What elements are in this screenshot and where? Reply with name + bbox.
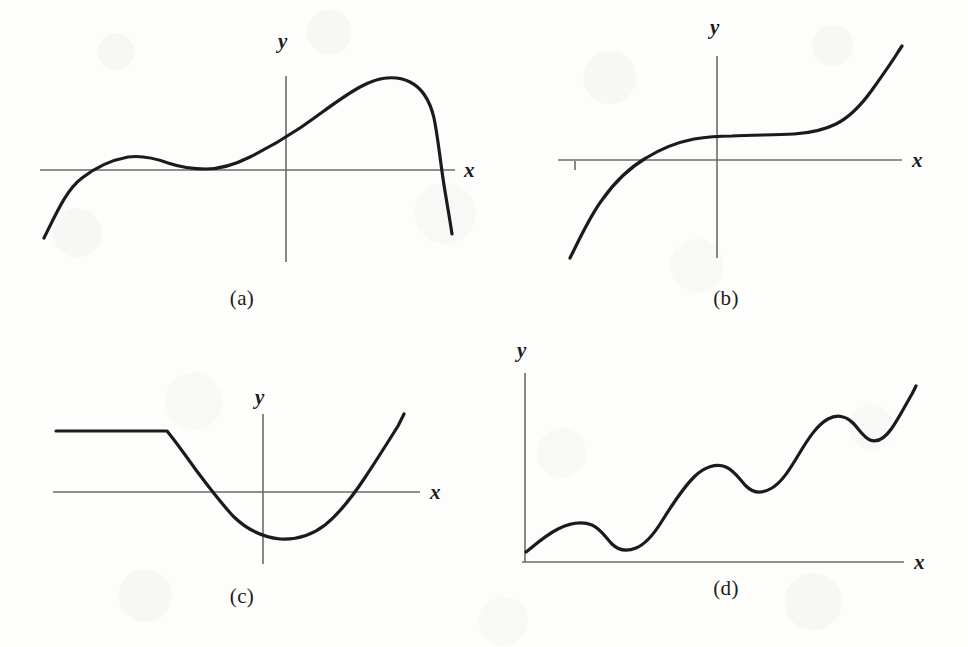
panel-c-y-label: y	[252, 385, 265, 409]
panel-a: x y (a)	[0, 0, 484, 280]
figure-page: x y (a) x y (b)	[0, 0, 968, 647]
panel-c-x-label: x	[429, 480, 441, 504]
panel-c-caption: (c)	[0, 584, 484, 609]
panel-a-caption: (a)	[0, 286, 484, 311]
panel-d: x y (d)	[484, 324, 968, 584]
panel-d-curve	[526, 386, 916, 552]
panel-b: x y (b)	[484, 0, 968, 280]
panel-c-curve	[56, 414, 404, 539]
panel-b-y-label: y	[707, 15, 720, 39]
panel-a-graph: x y	[0, 0, 484, 280]
panel-c-graph: x y	[0, 324, 484, 584]
panel-a-curve	[44, 78, 452, 238]
panel-d-y-label: y	[514, 338, 527, 362]
panel-c: x y (c)	[0, 324, 484, 584]
panel-b-graph: x y	[484, 0, 968, 280]
panel-d-x-label: x	[913, 550, 925, 574]
panel-d-graph: x y	[484, 324, 968, 584]
panel-d-caption: (d)	[484, 576, 968, 601]
panel-b-caption: (b)	[484, 286, 968, 311]
panel-b-curve	[570, 46, 902, 258]
panel-a-x-label: x	[463, 158, 475, 182]
panel-a-y-label: y	[275, 29, 288, 53]
panel-b-x-label: x	[911, 148, 923, 172]
